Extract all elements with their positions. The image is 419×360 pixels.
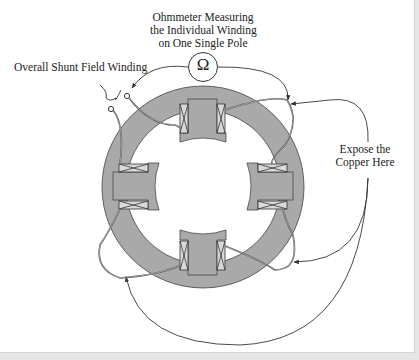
title-line-1: Ohmmeter Measuring <box>150 11 256 24</box>
title-line-2: the Individual Winding <box>150 24 256 37</box>
brace-icon <box>100 85 121 100</box>
terminal-icon <box>108 93 129 111</box>
motor-diagram <box>0 0 419 360</box>
title-line-3: on One Single Pole <box>150 37 256 50</box>
expose-line-2: Copper Here <box>334 156 396 169</box>
shunt-winding-label: Overall Shunt Field Winding <box>14 61 147 74</box>
expose-copper-label: Expose the Copper Here <box>334 143 396 169</box>
ohm-symbol: Ω <box>188 55 218 75</box>
ohmmeter-title: Ohmmeter Measuring the Individual Windin… <box>150 11 256 50</box>
expose-line-1: Expose the <box>334 143 396 156</box>
